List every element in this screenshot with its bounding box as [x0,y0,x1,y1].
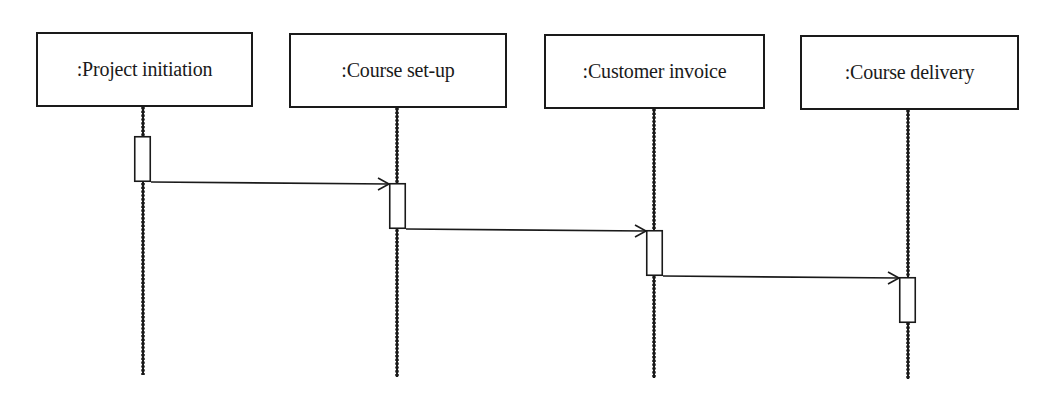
activation-bar-customer-invoice [647,231,663,276]
object-label: :Course delivery [845,61,975,84]
object-box-course-set-up: :Course set-up [289,33,507,108]
object-box-course-delivery: :Course delivery [800,35,1019,110]
activation-bar-course-delivery [900,278,916,323]
message-arrow-project-initiation-to-course-set-up [151,182,389,184]
lifelines [143,107,908,379]
object-box-project-initiation: :Project initiation [36,32,253,107]
messages [151,178,899,284]
activation-bar-project-initiation [135,137,151,182]
message-arrow-course-set-up-to-customer-invoice [406,229,646,231]
object-box-customer-invoice: :Customer invoice [544,34,765,109]
activation-bar-course-set-up [390,184,406,229]
object-label: :Customer invoice [583,60,727,83]
sequence-diagram: :Project initiation :Course set-up :Cust… [0,0,1044,395]
object-label: :Project initiation [77,58,213,81]
message-arrow-customer-invoice-to-course-delivery [663,276,899,278]
object-label: :Course set-up [341,59,454,82]
